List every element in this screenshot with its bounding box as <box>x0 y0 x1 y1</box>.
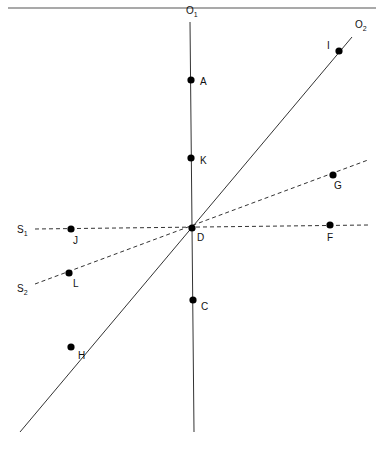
point-j <box>67 225 74 232</box>
line-label-o1: O1 <box>186 5 198 18</box>
line-s1 <box>35 225 368 229</box>
point-f <box>326 221 333 228</box>
point-a <box>187 76 194 83</box>
point-d <box>188 224 195 231</box>
point-l <box>65 269 72 276</box>
geometry-diagram: O1O2S1S2AKDCIGFJLH <box>0 0 387 455</box>
point-label-c: C <box>201 301 208 312</box>
line-label-s1: S1 <box>17 224 28 237</box>
point-label-h: H <box>78 350 85 361</box>
point-g <box>329 171 336 178</box>
point-label-f: F <box>327 232 333 243</box>
line-o2 <box>20 37 352 432</box>
line-subscript: 2 <box>24 289 28 296</box>
line-subscript: 1 <box>194 11 198 18</box>
line-s2 <box>35 160 368 284</box>
point-label-g: G <box>334 180 342 191</box>
point-label-k: K <box>200 155 207 166</box>
point-k <box>187 154 194 161</box>
point-h <box>67 343 74 350</box>
point-c <box>189 296 196 303</box>
line-label-o2: O2 <box>355 19 367 32</box>
point-label-d: D <box>197 232 204 243</box>
point-label-i: I <box>327 40 330 51</box>
point-label-l: L <box>73 278 79 289</box>
point-i <box>335 47 342 54</box>
point-label-j: J <box>73 235 78 246</box>
point-label-a: A <box>200 76 207 87</box>
line-label-s2: S2 <box>17 283 28 296</box>
line-subscript: 2 <box>363 25 367 32</box>
line-subscript: 1 <box>24 230 28 237</box>
